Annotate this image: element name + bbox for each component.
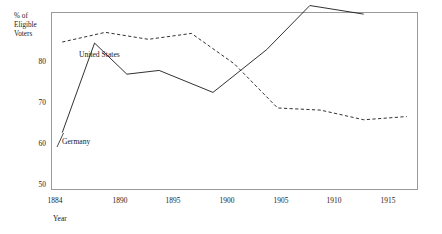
y-axis-title: % of Eligible Voters [14, 12, 48, 40]
x-axis-tick-1884: 1884 [38, 196, 72, 205]
series-label-germany: Germany [62, 137, 90, 146]
plot-frame [52, 13, 418, 190]
chart-container: % of Eligible Voters Year 80 70 60 50 18… [0, 0, 442, 234]
series-label-united-states: United States [79, 50, 120, 59]
series-line-germany [62, 6, 363, 133]
x-axis-tick-1890: 1890 [103, 196, 137, 205]
x-axis-tick-1915: 1915 [371, 196, 405, 205]
x-axis-tick-1905: 1905 [264, 196, 298, 205]
x-axis-tick-1910: 1910 [317, 196, 351, 205]
x-axis-tick-1895: 1895 [156, 196, 190, 205]
y-axis-tick-80: 80 [24, 57, 46, 66]
x-axis-title: Year [53, 214, 67, 223]
y-axis-tick-50: 50 [24, 180, 46, 189]
y-axis-tick-60: 60 [24, 139, 46, 148]
y-axis-tick-70: 70 [24, 98, 46, 107]
series-line-united-states [62, 32, 406, 119]
x-axis-tick-1900: 1900 [210, 196, 244, 205]
